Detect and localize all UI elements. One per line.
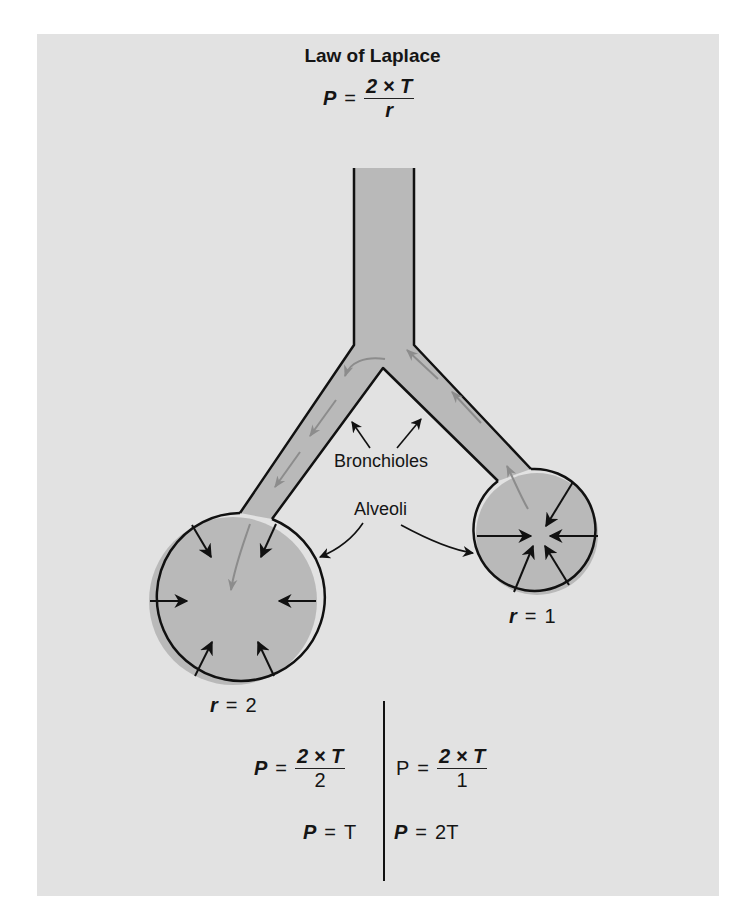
result-lhs: P [394,822,407,842]
small-radius-label: r = 1 [509,606,556,626]
radius-value: 2 [245,695,256,715]
formula-fraction: 2 × T r [364,76,414,120]
result-equals: = [415,822,427,842]
main-formula: P = 2 × T r [323,76,414,120]
radius-equals: = [525,606,537,626]
formula-numerator: 2 × T [295,746,345,769]
formula-lhs: P [396,758,409,778]
result-value: T [344,822,356,842]
radius-var: r [210,695,218,715]
formula-fraction: 2 × T 1 [437,746,487,790]
formula-fraction: 2 × T 2 [295,746,345,790]
formula-equals: = [417,758,429,778]
radius-var: r [509,606,517,626]
bronchioles-label: Bronchioles [334,452,428,470]
right-calc-result: P = 2T [394,822,458,842]
formula-denominator: r [385,99,393,120]
formula-equals: = [275,758,287,778]
formula-denominator: 1 [457,769,468,790]
alveoli-label: Alveoli [354,500,407,518]
result-lhs: P [303,822,316,842]
formula-lhs: P [323,88,336,108]
radius-value: 1 [544,606,555,626]
left-calc-formula: P = 2 × T 2 [254,746,345,790]
formula-equals: = [344,88,356,108]
formula-numerator: 2 × T [437,746,487,769]
result-equals: = [324,822,336,842]
result-value: 2T [435,822,458,842]
formula-numerator: 2 × T [364,76,414,99]
figure-title: Law of Laplace [0,46,745,65]
right-calc-formula: P = 2 × T 1 [396,746,487,790]
large-radius-label: r = 2 [210,695,257,715]
left-calc-result: P = T [303,822,356,842]
label-pointer-arrows [320,419,473,557]
radius-equals: = [226,695,238,715]
formula-denominator: 2 [315,769,326,790]
formula-lhs: P [254,758,267,778]
